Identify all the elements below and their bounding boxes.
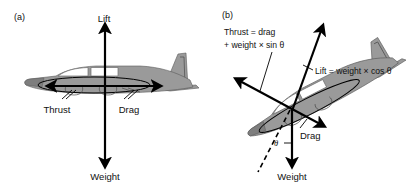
figure-background — [0, 0, 419, 187]
panel-a-label: (a) — [14, 12, 25, 22]
panel-b-label: (b) — [222, 10, 233, 20]
forces-on-aircraft-figure: (a) — [0, 0, 419, 187]
label-drag-a: Drag — [119, 104, 140, 115]
label-weight-a: Weight — [90, 171, 120, 182]
label-lift-a: Lift — [98, 13, 111, 24]
label-weight-b: Weight — [277, 171, 307, 182]
figure-canvas: (a) — [0, 0, 419, 187]
label-drag-b: Drag — [300, 130, 321, 141]
label-lift-b: Lift = weight × cos θ — [315, 66, 392, 76]
label-thrust-b-line2: + weight × sin θ — [224, 40, 284, 50]
label-thrust-b-line1: Thrust = drag — [224, 27, 276, 37]
label-thrust-a: Thrust — [44, 104, 71, 115]
label-theta-b: θ — [274, 138, 278, 148]
